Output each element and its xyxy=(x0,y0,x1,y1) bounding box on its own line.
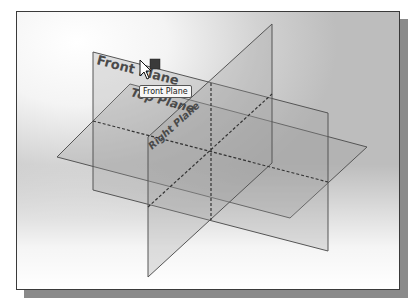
tooltip-text: Front Plane xyxy=(143,87,188,96)
right-plane[interactable] xyxy=(148,24,272,277)
tooltip: Front Plane xyxy=(139,85,192,98)
datum-planes-scene: Front Plane Top Plane Right Plane xyxy=(0,0,410,306)
plane-select-icon xyxy=(150,59,160,69)
